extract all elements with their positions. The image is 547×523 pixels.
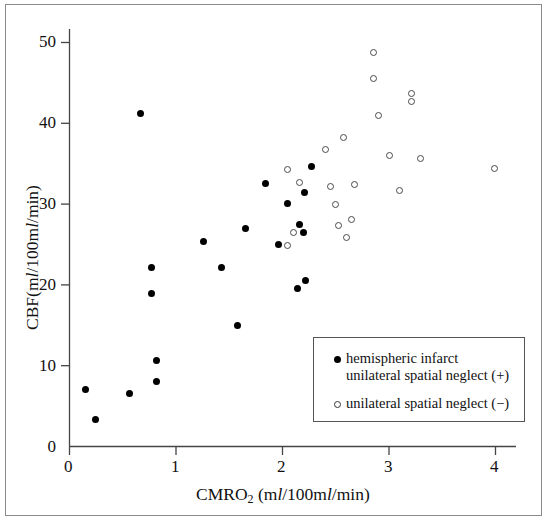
xtick-label-1: 1 xyxy=(171,457,180,477)
data-point-series-0 xyxy=(262,180,269,187)
data-point-series-1 xyxy=(417,155,424,162)
x-axis-label-subscript: 2 xyxy=(248,492,254,506)
data-point-series-1 xyxy=(408,98,415,105)
data-point-series-1 xyxy=(396,187,403,194)
y-axis-label: CBF(ml/100ml/min) xyxy=(22,185,43,330)
data-point-series-1 xyxy=(491,165,498,172)
xtick-label-2: 2 xyxy=(277,457,286,477)
legend-entry-filled: hemispheric infarct unilateral spatial n… xyxy=(328,350,509,384)
data-point-series-0 xyxy=(92,416,99,423)
scatter-plot-figure: 50 40 30 20 10 0 0 1 2 3 4 CBF(ml/100ml/… xyxy=(0,0,547,523)
data-point-series-1 xyxy=(370,75,377,82)
data-point-series-0 xyxy=(294,285,301,292)
ytick-label-50: 50 xyxy=(26,32,56,52)
legend-box: hemispheric infarct unilateral spatial n… xyxy=(313,337,525,422)
data-point-series-1 xyxy=(386,152,393,159)
legend-entry-filled-text: hemispheric infarct unilateral spatial n… xyxy=(346,350,509,384)
open-circle-icon xyxy=(328,395,346,408)
legend-entry-open: unilateral spatial neglect (−) xyxy=(328,395,509,412)
filled-circle-icon xyxy=(328,350,346,363)
legend-entry-filled-line2: unilateral spatial neglect (+) xyxy=(346,367,509,383)
data-point-series-1 xyxy=(327,183,334,190)
data-point-series-0 xyxy=(308,163,315,170)
xtick-label-3: 3 xyxy=(384,457,393,477)
data-point-series-0 xyxy=(296,221,303,228)
x-axis-label-unit: (ml/100ml/min) xyxy=(258,484,370,504)
data-point-series-1 xyxy=(332,201,339,208)
x-axis-label-main: CMRO xyxy=(196,484,248,504)
data-point-series-1 xyxy=(408,90,415,97)
axes-lines xyxy=(0,0,547,523)
legend-entry-filled-line1: hemispheric infarct xyxy=(346,350,458,366)
legend-entry-open-text: unilateral spatial neglect (−) xyxy=(346,395,509,412)
xtick-label-0: 0 xyxy=(64,457,73,477)
data-point-series-0 xyxy=(275,241,282,248)
data-point-series-1 xyxy=(322,146,329,153)
ytick-label-40: 40 xyxy=(26,113,56,133)
data-point-series-0 xyxy=(148,264,155,271)
y-axis-label-unit: (ml/100ml/min) xyxy=(22,185,42,297)
data-point-series-0 xyxy=(200,238,207,245)
data-point-series-1 xyxy=(343,234,350,241)
data-point-series-1 xyxy=(370,49,377,56)
y-axis-label-main: CBF xyxy=(22,297,42,330)
data-point-series-1 xyxy=(375,112,382,119)
ytick-label-0: 0 xyxy=(40,437,56,457)
data-point-series-0 xyxy=(153,357,160,364)
data-point-series-1 xyxy=(296,179,303,186)
xtick-label-4: 4 xyxy=(490,457,499,477)
data-point-series-0 xyxy=(242,225,249,232)
data-point-series-1 xyxy=(290,229,297,236)
ytick-label-10: 10 xyxy=(26,356,56,376)
x-axis-label: CMRO2 (ml/100ml/min) xyxy=(196,484,370,507)
